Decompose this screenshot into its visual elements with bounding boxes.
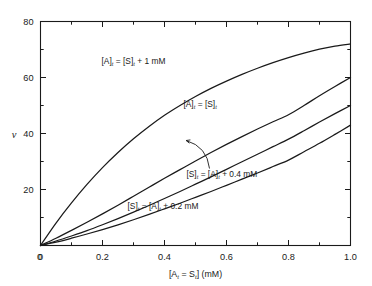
x-tick-label: 0.2 [96,252,109,262]
x-tick-labels: 00.20.40.60.81.0 [38,252,357,262]
y-axis-ticks [41,22,351,246]
series-label-0: [A]t = [S]t + 1 mM [102,56,166,67]
y-tick-label: 40 [23,129,33,139]
x-tick-label: 0.6 [220,252,233,262]
series-annotations: [A]t = [S]t + 1 mM[A]t = [S]t[S]t = [A]t… [102,56,258,213]
series-label-1: [A]t = [S]t [183,99,217,110]
line-chart: 00.20.40.60.81.0 204060800 [A]t = [S]t +… [0,0,372,286]
x-axis-title: [At = St] (mM) [169,269,222,280]
series-label-3: [S]t = [A]t + 0.2 mM [128,201,199,212]
y-axis-title: v [12,129,17,140]
x-axis-ticks [41,22,351,246]
origin-tick-label: 0 [37,252,42,262]
y-tick-label: 60 [23,73,33,83]
y-tick-label: 20 [23,185,33,195]
series-label-2: [S]t = [A]t + 0.4 mM [186,169,257,180]
x-tick-label: 0.4 [158,252,171,262]
y-tick-label: 80 [23,17,33,27]
x-tick-label: 0.8 [282,252,295,262]
y-tick-labels: 204060800 [23,17,42,262]
axes-frame [41,22,351,246]
figure-container: 00.20.40.60.81.0 204060800 [A]t = [S]t +… [0,0,372,286]
x-tick-label: 1.0 [344,252,357,262]
